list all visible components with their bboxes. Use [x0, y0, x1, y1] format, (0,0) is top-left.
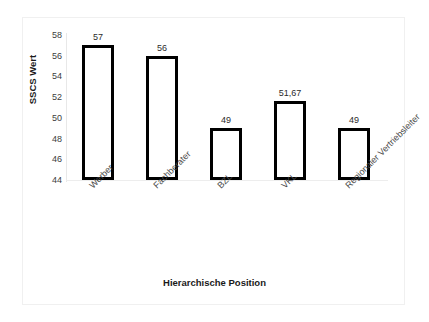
bar-value-label: 49 — [349, 116, 359, 125]
y-axis-tick-labels: 5856545250484644 — [40, 35, 62, 180]
bar-value-label: 51,67 — [279, 89, 302, 98]
bar-value-label: 49 — [221, 116, 231, 125]
plot-area: 57564951,6749 — [66, 35, 386, 180]
bar — [274, 101, 306, 180]
y-axis-tick-label: 54 — [40, 72, 62, 81]
bar-group: 51,67 — [274, 35, 306, 180]
y-axis-tick-label: 46 — [40, 155, 62, 164]
bar-group: 56 — [146, 35, 178, 180]
y-axis-tick-label: 48 — [40, 134, 62, 143]
bar-group: 57 — [82, 35, 114, 180]
y-axis-tick-label: 50 — [40, 113, 62, 122]
bar-group: 49 — [210, 35, 242, 180]
x-axis-title: Hierarchische Position — [0, 277, 429, 288]
chart-figure: 5856545250484644 SSCS Wert 57564951,6749… — [0, 0, 429, 322]
y-axis-tick-label: 58 — [40, 31, 62, 40]
y-axis-tick-label: 52 — [40, 93, 62, 102]
bar-group: 49 — [338, 35, 370, 180]
y-axis-tick-label: 56 — [40, 51, 62, 60]
bar-value-label: 56 — [157, 44, 167, 53]
bar — [82, 45, 114, 180]
y-axis-title: SSCS Wert — [27, 40, 38, 120]
y-axis-tick-label: 44 — [40, 176, 62, 185]
bar-value-label: 57 — [93, 33, 103, 42]
